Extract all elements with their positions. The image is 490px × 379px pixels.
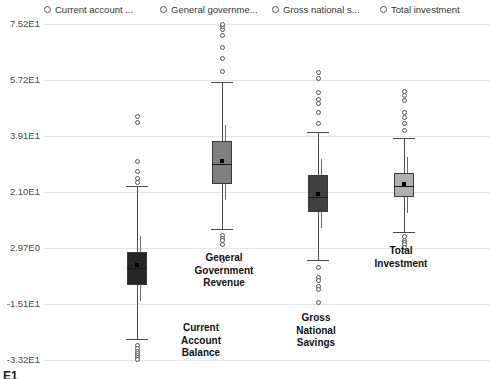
lower-whisker (137, 285, 138, 339)
outlier-point[interactable] (402, 89, 407, 94)
outlier-point[interactable] (316, 287, 321, 292)
confidence-line-0 (140, 236, 141, 252)
gridline (44, 136, 490, 137)
lower-whisker-cap (126, 339, 148, 340)
outlier-point[interactable] (316, 121, 321, 126)
gridline (44, 192, 490, 193)
median-line (308, 197, 328, 198)
confidence-line-1 (225, 184, 226, 200)
y-axis-tick-label: -1.51E1 (0, 299, 40, 309)
outlier-point[interactable] (220, 33, 225, 38)
outlier-point[interactable] (316, 278, 321, 283)
mean-marker (220, 159, 224, 163)
lower-whisker (222, 184, 223, 229)
outlier-point[interactable] (316, 265, 321, 270)
outlier-point[interactable] (316, 300, 321, 305)
outlier-point[interactable] (135, 180, 140, 185)
confidence-line-0 (321, 159, 322, 175)
category-label-gross-national-savings: Gross National Savings (270, 312, 362, 350)
category-label-total-investment: Total Investment (355, 245, 447, 270)
clipped-axis-artifact: E1 (3, 370, 37, 379)
lower-whisker (404, 197, 405, 233)
lower-whisker-cap (211, 229, 233, 230)
outlier-point[interactable] (220, 22, 225, 27)
outlier-point[interactable] (402, 121, 407, 126)
outlier-point[interactable] (220, 45, 225, 50)
outlier-point[interactable] (316, 70, 321, 75)
confidence-line-1 (407, 197, 408, 213)
outlier-point[interactable] (220, 56, 225, 61)
lower-whisker-cap (393, 232, 415, 233)
outlier-point[interactable] (135, 169, 140, 174)
upper-whisker (318, 132, 319, 175)
y-axis-tick-label: 2.97E0 (0, 243, 40, 253)
lower-whisker (318, 212, 319, 260)
confidence-line-1 (140, 285, 141, 301)
outlier-point[interactable] (402, 115, 407, 120)
upper-whisker-cap (307, 132, 329, 133)
lower-whisker-cap (307, 260, 329, 261)
gridline (44, 24, 490, 25)
confidence-line-1 (321, 212, 322, 228)
boxplot-chart: Current account ...General governme...Gr… (0, 0, 490, 379)
mean-marker (402, 182, 406, 186)
gridline (44, 360, 490, 361)
upper-whisker (222, 82, 223, 141)
y-axis-tick-label: 7.52E1 (0, 19, 40, 29)
upper-whisker-cap (393, 138, 415, 139)
outlier-point[interactable] (402, 93, 407, 98)
outlier-point[interactable] (316, 76, 321, 81)
confidence-line-0 (407, 157, 408, 173)
category-label-general-government-revenue: General Government Revenue (178, 252, 270, 290)
outlier-point[interactable] (135, 120, 140, 125)
category-label-current-account-balance: Current Account Balance (155, 322, 247, 360)
outlier-point[interactable] (316, 97, 321, 102)
y-axis-tick-label: 2.10E1 (0, 187, 40, 197)
upper-whisker-cap (211, 82, 233, 83)
outlier-point[interactable] (316, 90, 321, 95)
outlier-point[interactable] (220, 69, 225, 74)
outlier-point[interactable] (220, 242, 225, 247)
confidence-line-0 (225, 125, 226, 141)
median-line (127, 268, 147, 269)
outlier-point[interactable] (402, 98, 407, 103)
mean-marker (135, 263, 139, 267)
outlier-point[interactable] (135, 159, 140, 164)
upper-whisker (137, 186, 138, 252)
gridline (44, 304, 490, 305)
outlier-point[interactable] (316, 101, 321, 106)
upper-whisker-cap (126, 186, 148, 187)
median-line (212, 164, 232, 165)
outlier-point[interactable] (402, 128, 407, 133)
outlier-point[interactable] (316, 110, 321, 115)
y-axis-tick-label: 5.72E1 (0, 75, 40, 85)
y-axis-tick-label: -3.32E1 (0, 355, 40, 365)
mean-marker (316, 192, 320, 196)
y-axis-tick-label: 3.91E1 (0, 131, 40, 141)
upper-whisker (404, 138, 405, 174)
outlier-point[interactable] (135, 114, 140, 119)
plot-area: 7.52E15.72E13.91E12.10E12.97E0-1.51E1-3.… (0, 0, 490, 379)
gridline (44, 80, 490, 81)
outlier-point[interactable] (135, 357, 140, 362)
